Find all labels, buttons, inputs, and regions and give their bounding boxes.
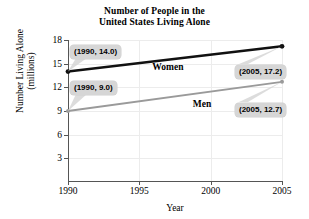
y-tick-label: 6 (57, 130, 62, 140)
x-tick-label: 1990 (59, 186, 78, 196)
x-tick-label: 2000 (201, 186, 220, 196)
chart-title-line-2: United States Living Alone (0, 17, 309, 28)
y-tick-label: 18 (53, 35, 63, 45)
x-tick-label: 1995 (130, 186, 149, 196)
x-axis-label: Year (68, 203, 282, 213)
y-axis-label: Number Living Alone (millions) (15, 1, 37, 141)
annotation-callout: (2005, 17.2) (235, 65, 286, 79)
annotation-callout: (1990, 9.0) (70, 81, 117, 95)
data-point-women (280, 44, 285, 49)
data-point-women (66, 69, 71, 74)
x-tick-mark (282, 181, 283, 185)
series-label-women: Women (152, 62, 183, 72)
data-point-men (66, 109, 70, 113)
x-tick-label: 2005 (273, 186, 292, 196)
y-tick-label: 12 (53, 82, 63, 92)
annotation-callout: (2005, 12.7) (235, 103, 286, 117)
y-axis-label-line-2: (millions) (26, 1, 37, 141)
y-tick-label: 9 (57, 106, 62, 116)
series-label-men: Men (193, 99, 211, 109)
y-tick-label: 15 (53, 59, 63, 69)
chart-title-line-1: Number of People in the (0, 6, 309, 17)
annotation-callout: (1990, 14.0) (70, 45, 121, 59)
y-axis-label-line-1: Number Living Alone (15, 1, 26, 141)
data-point-men (280, 80, 284, 84)
chart-title: Number of People in the United States Li… (0, 6, 309, 28)
y-tick-label: 3 (57, 153, 62, 163)
chart-figure: Number of People in the United States Li… (0, 0, 309, 219)
